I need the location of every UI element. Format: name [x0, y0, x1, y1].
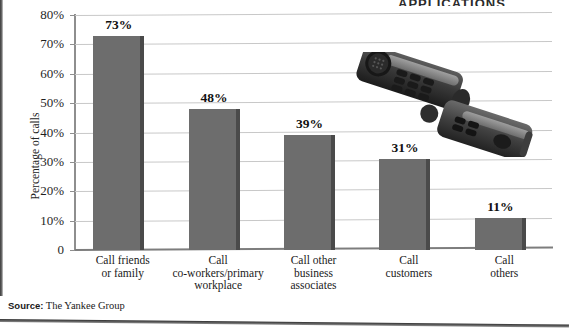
- category-label-line: Call: [443, 254, 566, 267]
- y-axis-tick-label: 70%: [20, 36, 64, 52]
- bar-group: 11%: [475, 15, 526, 250]
- y-axis-tick-label: 40%: [20, 125, 64, 141]
- y-axis-tick-label: 0: [20, 242, 64, 258]
- plot-area: 73%48%39%31%11%: [75, 15, 552, 250]
- bar-value-label: 11%: [487, 199, 513, 215]
- bar: [189, 109, 240, 250]
- bar-value-label: 48%: [201, 90, 228, 106]
- bar-value-label: 31%: [391, 140, 418, 156]
- y-axis-tick-label: 20%: [20, 183, 64, 199]
- bar-group: 73%: [93, 15, 144, 250]
- source-text: The Yankee Group: [46, 300, 125, 311]
- bar: [379, 159, 430, 250]
- bar: [93, 36, 144, 250]
- source-line: Source: The Yankee Group: [8, 300, 125, 311]
- bar-value-label: 73%: [105, 17, 132, 33]
- bar: [475, 218, 526, 250]
- y-axis-tick-label: 10%: [20, 213, 64, 229]
- y-axis-tick-label: 30%: [20, 154, 64, 170]
- y-axis-tick-label: 60%: [20, 66, 64, 82]
- y-axis-tick: [70, 250, 75, 251]
- bar-group: 31%: [379, 15, 430, 250]
- bar-group: 48%: [189, 15, 240, 250]
- y-axis-tick-label: 50%: [20, 95, 64, 111]
- bar-group: 39%: [284, 15, 335, 250]
- bar-value-label: 39%: [296, 116, 323, 132]
- bar-chart: Percentage of calls 010%20%30%40%50%60%7…: [0, 0, 569, 300]
- bar: [284, 135, 335, 250]
- y-axis-tick-label: 80%: [20, 7, 64, 23]
- source-label: Source:: [8, 300, 43, 311]
- category-label-line: others: [443, 267, 566, 280]
- category-label-line: associates: [252, 279, 375, 292]
- page-bottom-rule: [0, 319, 569, 327]
- x-axis-category-label: Callothers: [443, 254, 566, 279]
